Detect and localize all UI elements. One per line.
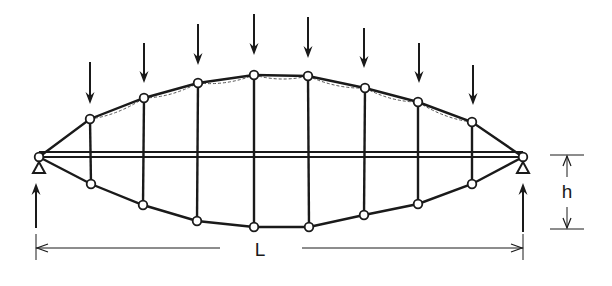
supports	[33, 162, 529, 173]
height-label: h	[562, 181, 573, 202]
pin-node	[87, 180, 96, 189]
vertical-post	[197, 83, 198, 221]
pin-node	[360, 211, 369, 220]
pin-node	[250, 71, 259, 80]
pin-node	[468, 180, 477, 189]
vertical-post	[143, 98, 144, 205]
bottom-chord	[39, 157, 523, 227]
top-chord	[39, 75, 523, 157]
pin-node	[414, 98, 423, 107]
pin-node	[86, 115, 95, 124]
vertical-post	[308, 76, 309, 227]
pin-node	[250, 223, 259, 232]
truss-diagram: L h	[0, 0, 612, 286]
pin-node	[304, 72, 313, 81]
tie-beam	[39, 152, 523, 157]
pin-node	[139, 201, 148, 210]
support-triangle-icon	[517, 162, 529, 173]
pin-node	[305, 223, 314, 232]
vertical-post	[364, 88, 365, 215]
pin-node	[140, 94, 149, 103]
load-arrows	[86, 14, 478, 105]
pin-node	[414, 200, 423, 209]
span-label: L	[255, 239, 266, 260]
vertical-post	[90, 119, 91, 184]
pin-node	[361, 84, 370, 93]
pin-node	[194, 79, 203, 88]
support-triangle-icon	[33, 162, 45, 173]
pin-node	[468, 118, 477, 127]
pin-node	[193, 217, 202, 226]
